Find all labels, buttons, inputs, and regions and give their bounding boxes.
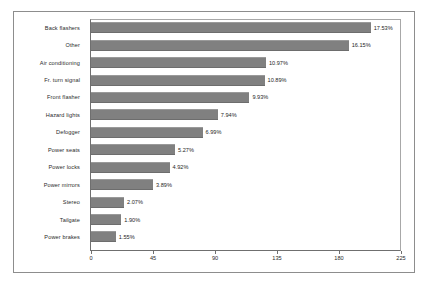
category-label: Tailgate xyxy=(0,217,80,223)
bar-track: 1.90% xyxy=(91,211,402,228)
tick-mark xyxy=(215,251,216,254)
category-label: Fr. turn signal xyxy=(0,77,80,83)
bar-row: Power seats615.27% xyxy=(14,141,416,158)
bar xyxy=(91,22,371,33)
bar xyxy=(91,75,265,86)
bar-track: 10.89% xyxy=(91,71,402,88)
category-label: Power locks xyxy=(0,164,80,170)
tick-label: 90 xyxy=(212,255,218,261)
bar-row: Hazard lights927.94% xyxy=(14,106,416,123)
chart-frame: Back flashers20317.53%Other18716.15%Air … xyxy=(13,11,415,273)
bar-track: 17.53% xyxy=(91,19,402,36)
bar-track: 5.27% xyxy=(91,141,402,158)
tick-mark xyxy=(339,251,340,254)
bar-row: Power locks574.92% xyxy=(14,159,416,176)
bar-data-label: 3.89% xyxy=(156,182,172,188)
bar-track: 2.07% xyxy=(91,193,402,210)
category-label: Hazard lights xyxy=(0,112,80,118)
tick-mark xyxy=(91,251,92,254)
bar-track: 1.55% xyxy=(91,228,402,245)
bar xyxy=(91,214,121,225)
bar-data-label: 6.99% xyxy=(206,129,222,135)
bar-track: 10.97% xyxy=(91,54,402,71)
bar xyxy=(91,109,218,120)
bar-track: 4.92% xyxy=(91,159,402,176)
x-axis-tick-labels: 04590135180225 xyxy=(90,255,402,265)
bar xyxy=(91,144,175,155)
category-label: Stereo xyxy=(0,199,80,205)
bar-data-label: 16.15% xyxy=(352,42,371,48)
category-label: Front flasher xyxy=(0,94,80,100)
tick-label: 0 xyxy=(89,255,92,261)
bar-row: Power mirrors453.89% xyxy=(14,176,416,193)
tick-label: 135 xyxy=(272,255,281,261)
tick-label: 225 xyxy=(396,255,405,261)
bar-row: Stereo242.07% xyxy=(14,193,416,210)
bar xyxy=(91,231,116,242)
bar-track: 9.93% xyxy=(91,89,402,106)
tick-label: 45 xyxy=(150,255,156,261)
bar-track: 6.99% xyxy=(91,124,402,141)
bar-data-label: 1.55% xyxy=(119,234,135,240)
tick-mark xyxy=(153,251,154,254)
bar-data-label: 9.93% xyxy=(252,94,268,100)
bar-track: 7.94% xyxy=(91,106,402,123)
tick-label: 180 xyxy=(334,255,343,261)
bar-data-label: 10.89% xyxy=(268,77,287,83)
bar-row: Other18716.15% xyxy=(14,36,416,53)
bar-row: Defogger816.99% xyxy=(14,124,416,141)
bar xyxy=(91,179,153,190)
bar-row: Back flashers20317.53% xyxy=(14,19,416,36)
bar-data-label: 7.94% xyxy=(221,112,237,118)
bar-data-label: 5.27% xyxy=(178,147,194,153)
bar-row: Fr. turn signal12610.89% xyxy=(14,71,416,88)
bar-track: 3.89% xyxy=(91,176,402,193)
category-label: Power seats xyxy=(0,147,80,153)
bar-data-label: 17.53% xyxy=(374,25,393,31)
bar-row: Front flasher1159.93% xyxy=(14,89,416,106)
category-label: Defogger xyxy=(0,129,80,135)
bar-data-label: 4.92% xyxy=(173,164,189,170)
bar-data-label: 1.90% xyxy=(124,217,140,223)
bar xyxy=(91,40,349,51)
category-label: Power brakes xyxy=(0,234,80,240)
bar-row: Air conditioning12710.97% xyxy=(14,54,416,71)
bar xyxy=(91,197,124,208)
category-label: Other xyxy=(0,42,80,48)
category-label: Power mirrors xyxy=(0,182,80,188)
bar xyxy=(91,57,266,68)
bar xyxy=(91,92,249,103)
category-label: Air conditioning xyxy=(0,60,80,66)
tick-mark xyxy=(401,251,402,254)
bar-data-label: 2.07% xyxy=(127,199,143,205)
bar xyxy=(91,162,170,173)
bar xyxy=(91,127,203,138)
bar-row: Power brakes181.55% xyxy=(14,228,416,245)
bar-data-label: 10.97% xyxy=(269,60,288,66)
category-label: Back flashers xyxy=(0,25,80,31)
bar-row: Tailgate221.90% xyxy=(14,211,416,228)
bar-track: 16.15% xyxy=(91,36,402,53)
tick-mark xyxy=(277,251,278,254)
bar-rows: Back flashers20317.53%Other18716.15%Air … xyxy=(14,19,416,246)
